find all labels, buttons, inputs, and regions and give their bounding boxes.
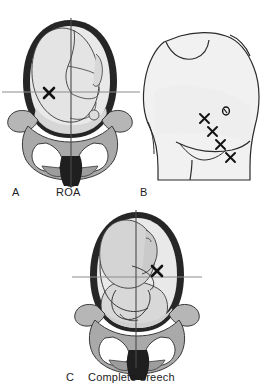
panel-a-roa-vertex [0, 8, 140, 188]
panel-c-letter-label: C [66, 372, 74, 383]
panel-b-maternal-abdomen [134, 22, 270, 184]
panel-c-complete-breech [62, 202, 212, 370]
panel-c-caption: Complete breech [88, 372, 175, 383]
panel-b-letter-label: B [140, 187, 148, 198]
panel-a-letter-label: A [12, 187, 20, 198]
fetal-hand-a [89, 110, 99, 120]
figure-root: A ROA B C Complete breech [0, 0, 270, 390]
panel-a-caption: ROA [56, 187, 80, 198]
